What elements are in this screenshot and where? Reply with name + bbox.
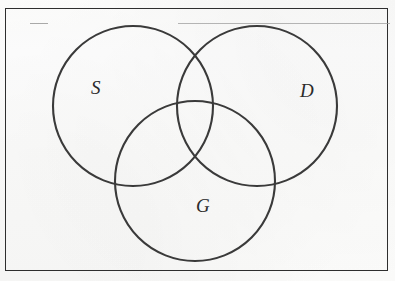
set-label-s: S (91, 78, 101, 97)
venn-diagram-svg (0, 0, 395, 281)
venn-circle-s (53, 26, 213, 186)
figure-page: S D G (0, 0, 395, 281)
set-label-g: G (196, 196, 210, 215)
venn-circle-g (115, 101, 275, 261)
set-label-d: D (300, 81, 314, 100)
venn-circle-d (177, 26, 337, 186)
